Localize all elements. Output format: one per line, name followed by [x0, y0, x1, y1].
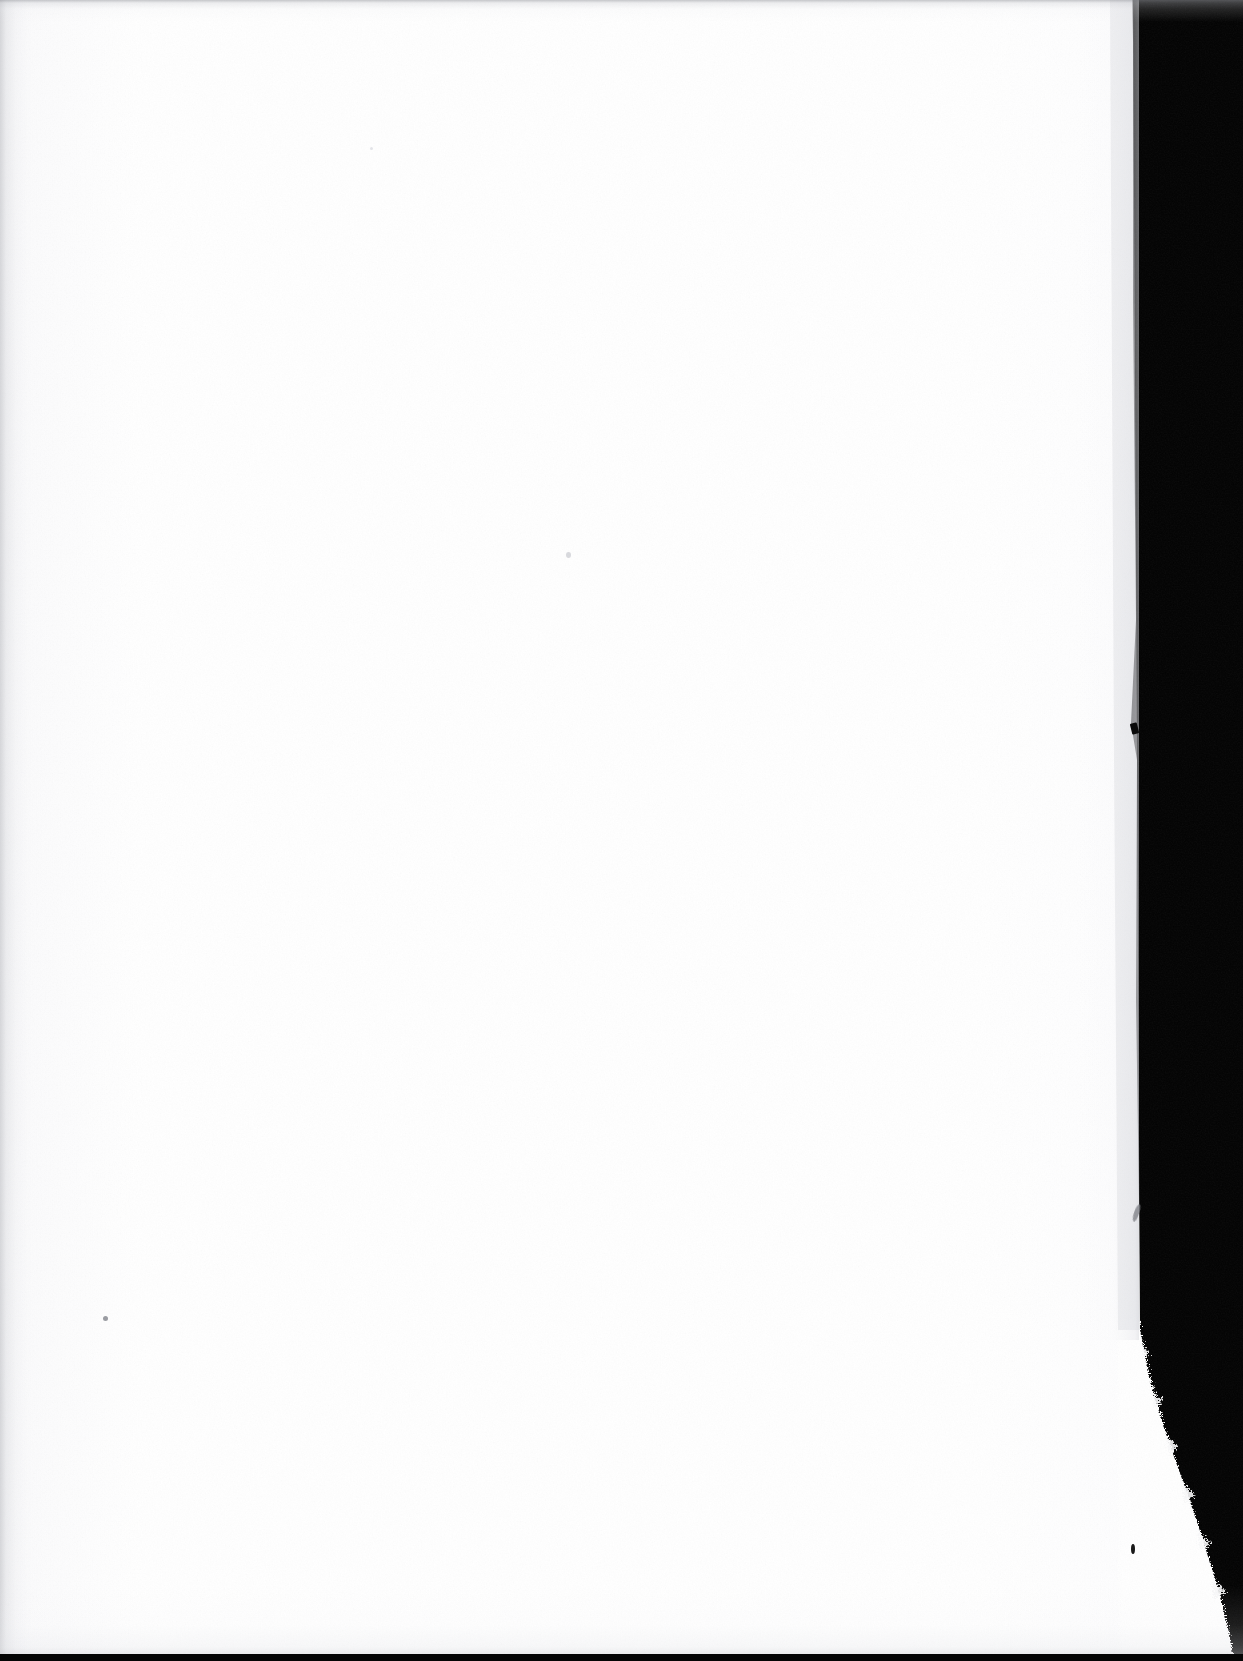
- scanned-page-view: [0, 0, 1243, 1661]
- scanner-bed-strip: [0, 1654, 1243, 1661]
- page-leaf: [0, 0, 1243, 1661]
